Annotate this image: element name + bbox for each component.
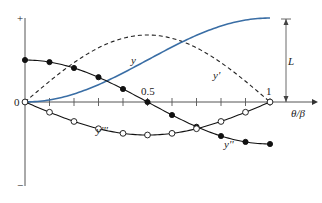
open-marker [22,99,28,105]
cam-displacement-chart: + − 0 0.5 1 θ/β L y y' y'' y''' [0,0,322,203]
open-marker [194,126,200,132]
open-marker [71,119,77,125]
lift-label: L [287,55,294,67]
open-marker [218,119,224,125]
label-y-double-prime: y'' [223,138,234,150]
filled-marker [120,86,125,91]
filled-marker [96,75,101,80]
open-marker [145,132,151,138]
arrow-up-icon [284,19,289,25]
tick-label-one: 1 [266,85,272,97]
y-minus-label: − [17,179,23,191]
label-y-prime: y' [212,69,221,81]
origin-label: 0 [14,96,20,108]
x-axis-arrow-icon [312,99,318,105]
filled-marker [145,99,150,104]
filled-marker [71,65,76,70]
axes [25,18,318,186]
filled-marker [218,133,223,138]
x-axis-label: θ/β [291,107,305,119]
open-marker [267,99,273,105]
y-plus-label: + [17,12,23,24]
filled-marker [267,141,272,146]
series-y-triple-prime [25,102,270,135]
open-marker [47,109,53,115]
open-marker [169,130,175,136]
arrow-down-icon [284,96,289,102]
filled-marker [243,139,248,144]
open-marker [120,130,126,136]
filled-marker [47,60,52,65]
label-y: y [130,54,136,66]
tick-label-half: 0.5 [141,85,155,97]
open-marker [243,109,249,115]
filled-marker [169,112,174,117]
filled-marker [22,57,27,62]
label-y-triple-prime: y''' [95,124,109,136]
